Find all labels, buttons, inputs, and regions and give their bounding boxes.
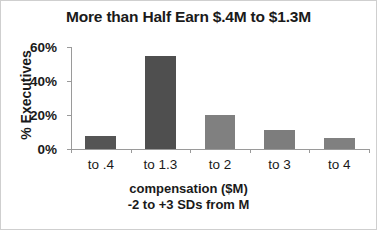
bar-3 [264, 130, 295, 149]
x-axis-title-line2: -2 to +3 SDs from M [1, 197, 376, 213]
x-tick-3 [250, 149, 251, 153]
chart-figure: More than Half Earn $.4M to $1.3M % Exec… [0, 0, 377, 230]
bar-2 [205, 115, 236, 149]
y-tick-label-3: 60% [0, 40, 57, 55]
chart-title: More than Half Earn $.4M to $1.3M [1, 8, 376, 26]
x-category-label-0: to .4 [71, 157, 131, 172]
bar-0 [85, 136, 116, 149]
x-tick-5 [369, 149, 370, 153]
y-tick-label-0: 0% [0, 142, 57, 157]
y-axis-label: % Executives [18, 50, 34, 140]
x-category-label-1: to 1.3 [131, 157, 191, 172]
bar-4 [324, 138, 355, 149]
x-axis-title: compensation ($M) -2 to +3 SDs from M [1, 181, 376, 213]
y-tick-label-1: 20% [0, 108, 57, 123]
bar-1 [145, 56, 176, 150]
x-axis-line [71, 149, 369, 150]
plot-area: 0%20%40%60% to .4to 1.3to 2to 3to 4 [71, 47, 369, 149]
y-tick-label-2: 40% [0, 74, 57, 89]
x-category-label-2: to 2 [190, 157, 250, 172]
x-category-label-3: to 3 [250, 157, 310, 172]
x-axis-title-line1: compensation ($M) [1, 181, 376, 197]
x-tick-0 [71, 149, 72, 153]
x-tick-4 [309, 149, 310, 153]
y-axis-label-container: % Executives [15, 39, 37, 151]
x-category-label-4: to 4 [309, 157, 369, 172]
x-tick-2 [190, 149, 191, 153]
x-tick-1 [131, 149, 132, 153]
bar-series [71, 47, 369, 149]
